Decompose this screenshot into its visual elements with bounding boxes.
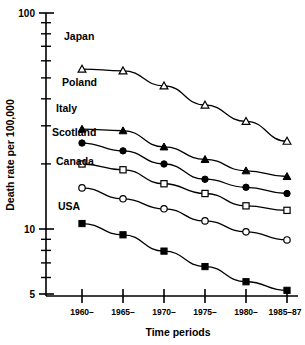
x-axis-title: Time periods <box>145 326 210 338</box>
data-point <box>79 185 85 191</box>
y-axis: 100 10 5 Death rate per 100,000 <box>4 8 54 300</box>
x-tick-label-1985: 1985–87 <box>268 307 301 317</box>
x-tick-label-1970: 1970– <box>152 307 176 317</box>
data-point <box>79 140 85 146</box>
data-point <box>284 237 290 243</box>
series-usa <box>79 220 290 293</box>
data-point <box>284 190 290 196</box>
x-tick-label-1975: 1975– <box>193 307 217 317</box>
series-label-poland: Poland <box>62 76 97 88</box>
series-scotland <box>79 161 290 214</box>
y-tick-label-10: 10 <box>24 224 36 235</box>
x-tick-label-1965: 1965– <box>111 307 135 317</box>
data-point <box>202 218 208 224</box>
x-axis: 1960– 1965– 1970– 1975– 1980– 1985–87 Ti… <box>46 289 302 338</box>
y-tick-label-100: 100 <box>18 8 35 19</box>
data-point <box>284 207 290 213</box>
data-point <box>243 229 249 235</box>
data-point <box>243 203 249 209</box>
data-point <box>243 279 249 285</box>
data-point <box>120 167 126 173</box>
series-line-italy <box>82 143 287 193</box>
data-point <box>161 206 167 212</box>
series-label-japan: Japan <box>64 30 94 42</box>
chart-container: 100 10 5 Death rate per 100,000 1960– 19… <box>0 0 305 345</box>
y-tick-label-5: 5 <box>29 289 35 300</box>
series-label-usa: USA <box>58 200 81 212</box>
data-point <box>243 184 249 190</box>
x-tick-label-1980: 1980– <box>234 307 258 317</box>
series-japan <box>78 65 291 144</box>
y-axis-title: Death rate per 100,000 <box>4 99 16 211</box>
data-point <box>79 220 85 226</box>
data-point <box>202 263 208 269</box>
series-line-usa <box>82 224 287 291</box>
data-point <box>161 161 167 167</box>
series-line-canada <box>82 188 287 240</box>
data-point <box>202 176 208 182</box>
data-point <box>202 190 208 196</box>
line-chart-svg: 100 10 5 Death rate per 100,000 1960– 19… <box>0 0 305 345</box>
series-layer <box>78 65 291 293</box>
series-label-scotland: Scotland <box>52 126 96 138</box>
series-label-canada: Canada <box>56 155 94 167</box>
data-point <box>161 181 167 187</box>
data-point <box>161 248 167 254</box>
data-point <box>284 287 290 293</box>
series-label-italy: Italy <box>56 102 77 114</box>
series-labels: Japan Poland Italy Scotland Canada USA <box>52 30 97 212</box>
series-canada <box>79 185 290 243</box>
data-point <box>120 196 126 202</box>
data-point <box>120 232 126 238</box>
x-tick-label-1960: 1960– <box>70 307 94 317</box>
data-point <box>120 148 126 154</box>
